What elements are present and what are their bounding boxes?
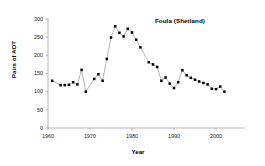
data-point-marker xyxy=(198,80,201,83)
y-tick-label: 200 xyxy=(26,52,43,58)
data-point-marker xyxy=(185,74,188,77)
y-tick-label: 250 xyxy=(26,34,43,40)
data-point-marker xyxy=(114,25,117,28)
data-point-marker xyxy=(139,46,142,49)
data-point-marker xyxy=(177,81,180,84)
data-point-marker xyxy=(72,81,75,84)
data-point-marker xyxy=(223,90,226,93)
data-point-marker xyxy=(181,69,184,72)
data-point-marker xyxy=(219,85,222,88)
data-point-marker xyxy=(164,76,167,79)
data-point-marker xyxy=(173,87,176,90)
data-point-marker xyxy=(148,61,151,64)
data-point-marker xyxy=(59,84,62,87)
x-tick-label: 1990 xyxy=(161,133,187,139)
data-markers-group xyxy=(51,25,226,93)
chart-canvas xyxy=(0,0,265,166)
axes-group xyxy=(46,18,246,131)
data-point-marker xyxy=(85,90,88,93)
data-point-marker xyxy=(76,83,79,86)
data-point-marker xyxy=(194,78,197,81)
data-point-marker xyxy=(156,66,159,69)
data-point-marker xyxy=(160,80,163,83)
data-point-marker xyxy=(190,77,193,80)
data-point-marker xyxy=(135,38,138,41)
chart-figure: Foula (Shetland) Pairs of AOT Year 05010… xyxy=(0,0,265,166)
data-point-marker xyxy=(93,78,96,81)
x-tick-label: 1970 xyxy=(77,133,103,139)
data-point-marker xyxy=(80,69,83,72)
data-point-marker xyxy=(122,35,125,38)
x-tick-label: 1960 xyxy=(35,133,61,139)
data-point-marker xyxy=(202,82,205,85)
data-point-marker xyxy=(64,84,67,87)
y-tick-label: 0 xyxy=(26,125,43,131)
data-point-marker xyxy=(101,80,104,83)
data-point-marker xyxy=(127,28,130,31)
data-point-marker xyxy=(106,58,109,61)
x-tick-label: 2000 xyxy=(203,133,229,139)
data-point-marker xyxy=(169,82,172,85)
data-point-marker xyxy=(215,88,218,91)
y-tick-label: 50 xyxy=(26,107,43,113)
data-point-marker xyxy=(51,80,54,83)
data-point-marker xyxy=(68,84,71,87)
data-point-marker xyxy=(118,32,121,34)
y-tick-label: 300 xyxy=(26,16,43,22)
y-tick-label: 150 xyxy=(26,70,43,76)
x-tick-label: 1980 xyxy=(119,133,145,139)
data-point-marker xyxy=(211,88,214,91)
data-point-marker xyxy=(206,83,209,86)
data-point-marker xyxy=(152,63,155,66)
y-tick-label: 100 xyxy=(26,88,43,94)
data-point-marker xyxy=(97,73,100,76)
data-point-marker xyxy=(110,36,113,39)
data-point-marker xyxy=(131,31,134,34)
